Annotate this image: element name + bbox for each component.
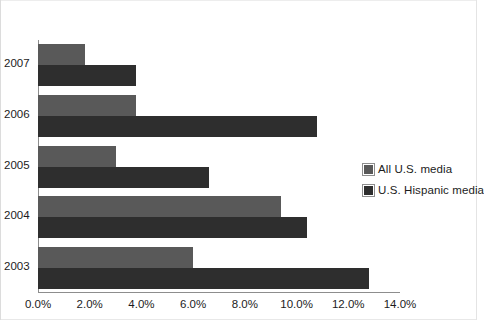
bar-2006-series-1 — [38, 95, 136, 116]
chart-legend: All U.S. mediaU.S. Hispanic media — [363, 163, 475, 205]
bar-group-2004 — [38, 196, 400, 238]
bar-group-2005 — [38, 146, 400, 188]
figure-border-right — [476, 0, 477, 320]
x-tick-label-0: 0.0% — [16, 298, 60, 310]
x-tick-label-10: 10.0% — [275, 298, 319, 310]
bar-2005-series-1 — [38, 146, 116, 167]
bar-2005-series-2 — [38, 167, 209, 188]
legend-swatch-icon-1 — [363, 164, 374, 175]
legend-label-1: All U.S. media — [378, 163, 452, 175]
x-tick-label-4: 4.0% — [119, 298, 163, 310]
y-tick-label-2004: 2004 — [4, 209, 34, 221]
x-tick-label-14: 14.0% — [378, 298, 422, 310]
x-tick-label-6: 6.0% — [171, 298, 215, 310]
bar-2003-series-2 — [38, 268, 369, 289]
y-tick-label-2006: 2006 — [4, 108, 34, 120]
legend-item-1[interactable]: All U.S. media — [363, 163, 475, 175]
x-tick-label-8: 8.0% — [223, 298, 267, 310]
x-tick-label-12: 12.0% — [326, 298, 370, 310]
legend-swatch-icon-2 — [363, 185, 374, 196]
bar-2006-series-2 — [38, 116, 317, 137]
figure-border-left — [0, 0, 1, 320]
bar-2004-series-1 — [38, 196, 281, 217]
bar-group-2003 — [38, 247, 400, 289]
bar-2007-series-2 — [38, 65, 136, 86]
bar-group-2006 — [38, 95, 400, 137]
y-tick-label-2005: 2005 — [4, 159, 34, 171]
bar-2003-series-1 — [38, 247, 193, 268]
clipped-caption-text — [6, 0, 306, 6]
bar-group-2007 — [38, 44, 400, 86]
plot-area — [38, 40, 400, 293]
y-tick-label-2003: 2003 — [4, 260, 34, 272]
y-tick-label-2007: 2007 — [4, 57, 34, 69]
bar-2004-series-2 — [38, 217, 307, 238]
bar-2007-series-1 — [38, 44, 85, 65]
x-tick-label-2: 2.0% — [68, 298, 112, 310]
legend-label-2: U.S. Hispanic media — [378, 184, 484, 196]
legend-item-2[interactable]: U.S. Hispanic media — [363, 184, 475, 196]
